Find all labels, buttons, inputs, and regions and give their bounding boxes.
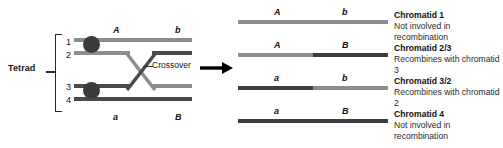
- chromatid-4-note: Not involved in recombination: [394, 120, 503, 141]
- chromatid-2-name: Chromatid 2/3: [394, 43, 503, 54]
- crossover-label: Crossover: [152, 60, 191, 70]
- chromatid-4-allele-left: a: [274, 106, 279, 116]
- chromatid-list: A b Chromatid 1 Not involved in recombin…: [238, 0, 503, 148]
- strand-number-2: 2: [62, 50, 71, 60]
- chromatid-3-allele-right: b: [342, 73, 348, 83]
- chromatid-2-segment-1: [238, 53, 313, 57]
- transition-arrow: [200, 60, 234, 80]
- centromere-icon-top: [83, 36, 100, 53]
- chromatid-1-allele-right: b: [342, 7, 348, 17]
- strand-number-4: 4: [62, 95, 71, 105]
- recombination-diagram: Tetrad 1 2 3 4 A b a B Crossover: [0, 0, 503, 148]
- tetrad-strand-3-right: [152, 51, 192, 55]
- strand-number-1: 1: [62, 37, 71, 47]
- chromatid-3-segment-1: [238, 86, 313, 90]
- chromatid-row-1: A b Chromatid 1 Not involved in recombin…: [238, 3, 503, 37]
- chromatid-1-allele-left: A: [274, 7, 281, 17]
- chromatid-row-2: A B Chromatid 2/3 Recombines with chroma…: [238, 36, 503, 70]
- chromatid-row-3: a b Chromatid 3/2 Recombines with chroma…: [238, 69, 503, 103]
- allele-label-b-top: b: [175, 25, 181, 35]
- allele-label-B-bottom: B: [175, 112, 182, 122]
- chromatid-4-segment-1: [238, 119, 388, 123]
- chromatid-3-segment-2: [313, 86, 388, 90]
- chromatid-4-bar: [238, 119, 388, 123]
- arrow-right-icon: [200, 60, 234, 76]
- strand-number-3: 3: [62, 82, 71, 92]
- allele-label-a-bottom: a: [113, 112, 118, 122]
- chromatid-4-name: Chromatid 4: [394, 109, 503, 120]
- chromatid-1-segment-1: [238, 20, 388, 24]
- tetrad-bracket: [55, 34, 62, 112]
- chromatid-1-name: Chromatid 1: [394, 10, 503, 21]
- chromatid-2-bar: [238, 53, 388, 57]
- centromere-icon-bottom: [83, 82, 100, 99]
- chromatid-4-allele-right: B: [342, 106, 349, 116]
- allele-label-A-top: A: [113, 25, 120, 35]
- tetrad-label: Tetrad: [8, 63, 35, 73]
- chromatid-3-bar: [238, 86, 388, 90]
- tetrad-strand-2-left: [74, 51, 130, 55]
- chromatid-row-4: a B Chromatid 4 Not involved in recombin…: [238, 102, 503, 136]
- chromatid-2-segment-2: [313, 53, 388, 57]
- chromatid-2-allele-left: A: [274, 40, 281, 50]
- tetrad-strand-2-right: [152, 84, 192, 88]
- chromatid-1-bar: [238, 20, 388, 24]
- chromatid-2-allele-right: B: [342, 40, 349, 50]
- chromatid-3-allele-left: a: [274, 73, 279, 83]
- chromatid-3-name: Chromatid 3/2: [394, 76, 503, 87]
